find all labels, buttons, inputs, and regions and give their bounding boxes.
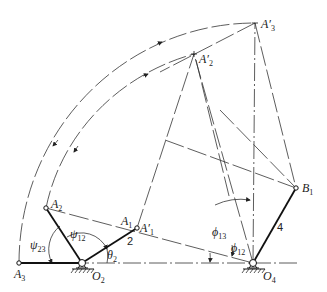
link-4 — [253, 188, 296, 263]
label-O4: O4 — [263, 270, 276, 285]
label-A2: A2 — [51, 198, 62, 213]
angle-theta2: θ2 — [107, 249, 117, 264]
label-A1-prime: A′1 — [140, 222, 154, 237]
label-A3: A3 — [14, 268, 25, 283]
inner-arc — [46, 54, 194, 208]
linkage-diagram: A3 A2 A1 A′1 A′2 A′3 B1 O2 O4 ψ23 ψ12 θ2… — [0, 0, 327, 292]
label-O2: O2 — [92, 270, 105, 285]
diagram-canvas — [0, 0, 327, 292]
label-A3-prime: A′3 — [261, 18, 275, 33]
label-B1: B1 — [302, 182, 313, 197]
label-A1: A1 — [121, 215, 132, 230]
label-A2-prime: A′2 — [199, 53, 213, 68]
link-4-label: 4 — [277, 222, 283, 233]
angle-psi23: ψ23 — [30, 239, 45, 254]
angle-phi13: ϕ13 — [212, 226, 226, 241]
angle-phi12: ϕ12 — [231, 242, 245, 257]
link-2-label: 2 — [127, 236, 133, 247]
angle-psi12: ψ12 — [70, 228, 85, 243]
